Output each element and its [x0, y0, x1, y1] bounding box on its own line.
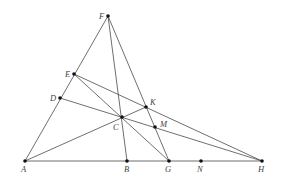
segment-eh [74, 74, 262, 161]
segment-ak [25, 107, 146, 161]
point-m [153, 125, 157, 129]
point-b [125, 159, 129, 163]
point-n [199, 159, 203, 163]
label-m: M [159, 119, 168, 129]
point-c [120, 115, 124, 119]
point-g [167, 159, 171, 163]
label-e: E [64, 69, 71, 79]
point-k [144, 105, 148, 109]
segment-af [25, 16, 108, 161]
label-f: F [98, 11, 105, 21]
segment-dh [60, 98, 262, 161]
point-f [106, 14, 110, 18]
label-g: G [165, 164, 171, 174]
point-labels: FEDAKCMBGNH [20, 11, 265, 174]
point-h [260, 159, 264, 163]
label-b: B [124, 164, 129, 174]
point-d [58, 96, 62, 100]
label-n: N [196, 164, 204, 174]
point-e [72, 72, 76, 76]
label-k: K [149, 97, 157, 107]
geometry-diagram: FEDAKCMBGNH [0, 0, 284, 185]
point-a [23, 159, 27, 163]
label-a: A [20, 164, 27, 174]
line-segments [25, 16, 262, 161]
label-d: D [49, 93, 57, 103]
label-c: C [113, 122, 119, 132]
label-h: H [257, 164, 265, 174]
points [23, 14, 264, 163]
